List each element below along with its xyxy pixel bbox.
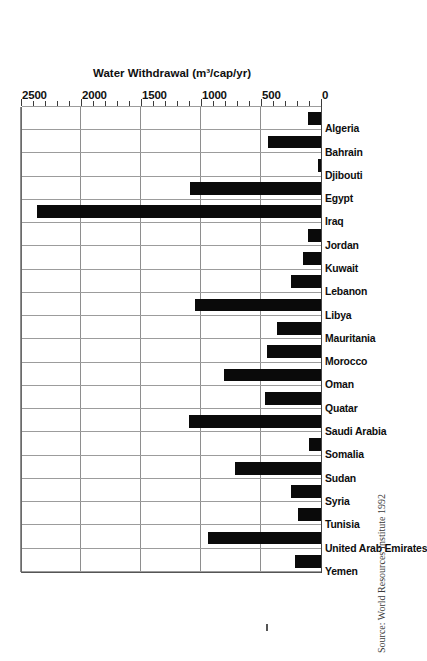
category-label-text: Lebanon <box>325 286 367 297</box>
value-axis-minor-tick <box>117 101 118 106</box>
bar[interactable] <box>224 368 321 381</box>
bar[interactable] <box>303 252 321 265</box>
value-axis-minor-tick <box>309 101 310 106</box>
bar-slot <box>21 340 321 363</box>
value-axis-minor-tick <box>165 101 166 106</box>
category-label-text: Jordan <box>325 239 359 250</box>
bar[interactable] <box>265 391 321 404</box>
value-axis-minor-tick <box>237 101 238 106</box>
bar[interactable] <box>195 298 321 311</box>
bar[interactable] <box>190 182 321 195</box>
bar[interactable] <box>277 321 321 334</box>
bar[interactable] <box>291 275 321 288</box>
value-axis-tick-label: 2500 <box>22 89 47 101</box>
source-credit-text: Source: World Resources Institute 1992 <box>376 494 387 653</box>
bar-slot <box>21 433 321 456</box>
bar-slot <box>21 107 321 130</box>
value-axis-minor-tick <box>249 101 250 106</box>
value-axis-minor-tick <box>93 101 94 106</box>
bar[interactable] <box>298 508 321 521</box>
value-axis-minor-tick <box>57 101 58 106</box>
category-label-text: Algeria <box>325 123 359 134</box>
bar-slot <box>21 130 321 153</box>
category-label-text: Bahrain <box>325 146 363 157</box>
category-label: Algeria <box>323 107 389 130</box>
value-axis-minor-tick <box>213 101 214 106</box>
bar-slot <box>21 479 321 502</box>
category-label-text: Sudan <box>325 472 356 483</box>
value-axis-tick-label: 1500 <box>142 89 167 101</box>
category-label-text: Mauritania <box>325 332 375 343</box>
bar-slot <box>21 223 321 246</box>
category-label-text: Iraq <box>325 216 343 227</box>
category-label-text: Somalia <box>325 449 364 460</box>
category-label-text: Oman <box>325 379 354 390</box>
bar-slot <box>21 503 321 526</box>
bar[interactable] <box>267 345 321 358</box>
category-label-text: Yemen <box>325 565 358 576</box>
value-axis-minor-tick <box>189 101 190 106</box>
value-axis-tick-label: 2000 <box>82 89 107 101</box>
bar[interactable] <box>308 228 321 241</box>
rotated-figure: 05001000150020002500 Water Withdrawal (m… <box>11 31 391 631</box>
bar-slot <box>21 270 321 293</box>
bar-slot <box>21 409 321 432</box>
bar-slot <box>21 176 321 199</box>
category-label-text: Libya <box>325 309 351 320</box>
value-axis-tick-label: 1000 <box>202 89 227 101</box>
value-axis-minor-tick <box>273 101 274 106</box>
value-axis-minor-tick <box>285 101 286 106</box>
bar-slot <box>21 153 321 176</box>
category-label-text: Tunisia <box>325 519 360 530</box>
bar[interactable] <box>295 554 321 567</box>
bar-slot <box>21 316 321 339</box>
category-label-text: Morocco <box>325 356 367 367</box>
value-axis-minor-tick <box>177 101 178 106</box>
source-credit: Source: World Resources Institute 1992 <box>373 425 399 655</box>
bar-slot <box>21 200 321 223</box>
value-axis-minor-tick <box>69 101 70 106</box>
bar-series <box>21 107 321 573</box>
bar-slot <box>21 526 321 549</box>
value-axis-minor-tick <box>297 101 298 106</box>
bar[interactable] <box>37 205 321 218</box>
bar-slot <box>21 456 321 479</box>
value-axis-minor-tick <box>105 101 106 106</box>
category-label-text: Kuwait <box>325 263 358 274</box>
value-axis-minor-tick <box>153 101 154 106</box>
page-edge-mark <box>266 624 268 631</box>
value-axis-tick-label: 0 <box>322 89 328 101</box>
bar-slot <box>21 363 321 386</box>
value-axis-minor-tick <box>129 101 130 106</box>
value-axis-minor-tick <box>33 101 34 106</box>
value-axis-minor-tick <box>225 101 226 106</box>
bar[interactable] <box>235 461 321 474</box>
bar[interactable] <box>309 438 321 451</box>
category-label-text: Quatar <box>325 402 358 413</box>
category-label-text: Egypt <box>325 193 353 204</box>
bar-slot <box>21 293 321 316</box>
category-label-text: Syria <box>325 495 350 506</box>
bar-slot <box>21 549 321 572</box>
bar[interactable] <box>268 135 321 148</box>
bar-slot <box>21 386 321 409</box>
bar-slot <box>21 246 321 269</box>
value-axis-tick-label: 500 <box>262 89 281 101</box>
bar[interactable] <box>308 112 321 125</box>
value-axis-title: Water Withdrawal (m³/cap/yr) <box>21 63 322 83</box>
bar[interactable] <box>208 531 321 544</box>
category-label-text: Djibouti <box>325 169 362 180</box>
bar[interactable] <box>189 415 321 428</box>
bar[interactable] <box>291 485 321 498</box>
value-axis-minor-tick <box>45 101 46 106</box>
bar[interactable] <box>318 158 321 171</box>
value-axis-title-text: Water Withdrawal (m³/cap/yr) <box>93 66 251 78</box>
